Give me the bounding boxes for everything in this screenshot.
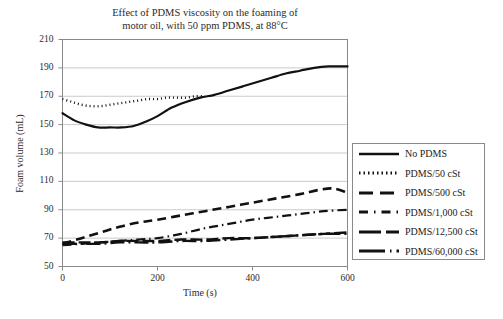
legend-line-sample: [358, 188, 400, 198]
y-axis-label: Foam volume (mL): [14, 89, 25, 219]
series-line-6: [63, 234, 348, 244]
legend-item[interactable]: No PDMS: [353, 144, 484, 164]
legend-item-label: PDMS/1,000 cSt: [405, 207, 473, 218]
y-axis-tick-label: 110: [30, 175, 54, 185]
legend-line-sample: [358, 246, 400, 256]
legend-item-label: No PDMS: [405, 148, 447, 159]
legend-line-sample: [358, 168, 400, 178]
legend-item[interactable]: PDMS/60,000 cSt: [353, 242, 484, 262]
legend-line-sample: [358, 149, 400, 159]
chart-figure: Effect of PDMS viscosity on the foaming …: [0, 0, 503, 319]
legend-item[interactable]: PDMS/50 cSt: [353, 164, 484, 184]
data-series: [63, 66, 348, 245]
chart-legend: No PDMSPDMS/50 cStPDMS/500 cStPDMS/1,000…: [352, 143, 485, 260]
legend-line-sample: [358, 207, 400, 217]
x-axis-tick-label: 400: [238, 273, 268, 283]
legend-item-label: PDMS/50 cSt: [405, 168, 460, 179]
legend-item-label: PDMS/500 cSt: [405, 187, 465, 198]
legend-line-sample: [358, 227, 400, 237]
y-axis-tick-label: 50: [30, 261, 54, 271]
y-axis-tick-label: 150: [30, 119, 54, 129]
x-axis-tick-label: 600: [333, 273, 363, 283]
y-axis-tick-label: 210: [30, 34, 54, 44]
series-line-1: [63, 66, 348, 127]
x-axis-label: Time (s): [140, 287, 260, 298]
y-axis-tick-label: 190: [30, 62, 54, 72]
y-axis-tick-label: 90: [30, 204, 54, 214]
series-line-2: [63, 96, 206, 106]
y-axis-tick-label: 130: [30, 147, 54, 157]
legend-item-label: PDMS/12,500 cSt: [405, 226, 478, 237]
y-axis-tick-label: 170: [30, 90, 54, 100]
legend-item[interactable]: PDMS/500 cSt: [353, 183, 484, 203]
x-axis-tick-label: 0: [48, 273, 78, 283]
legend-item[interactable]: PDMS/1,000 cSt: [353, 203, 484, 223]
legend-item-label: PDMS/60,000 cSt: [405, 246, 478, 257]
x-axis-tick-label: 200: [143, 273, 173, 283]
series-line-4: [63, 210, 348, 245]
legend-item[interactable]: PDMS/12,500 cSt: [353, 222, 484, 242]
y-axis-tick-label: 70: [30, 232, 54, 242]
